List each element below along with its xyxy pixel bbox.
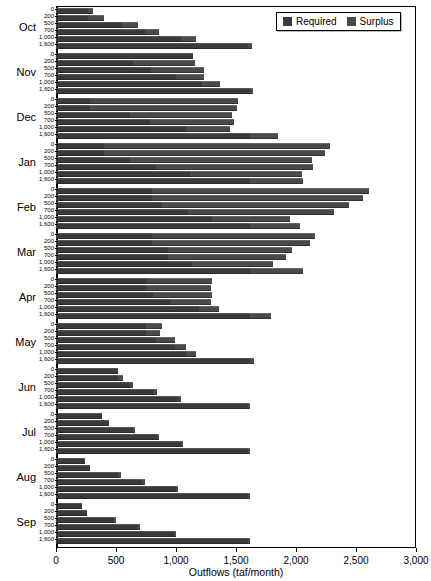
bar-row[interactable] xyxy=(56,531,416,537)
bar-row[interactable] xyxy=(56,223,416,229)
bar-segment-required[interactable] xyxy=(56,524,138,530)
bar-segment-surplus[interactable] xyxy=(88,15,104,21)
bar-segment-surplus[interactable] xyxy=(248,43,252,49)
bar-segment-surplus[interactable] xyxy=(152,233,315,239)
bar-row[interactable] xyxy=(56,36,416,42)
bar-segment-surplus[interactable] xyxy=(202,81,220,87)
bar-segment-required[interactable] xyxy=(56,157,130,163)
bar-segment-surplus[interactable] xyxy=(248,538,250,544)
bar-segment-surplus[interactable] xyxy=(250,178,303,184)
bar-segment-required[interactable] xyxy=(56,330,146,336)
bar-segment-surplus[interactable] xyxy=(145,29,159,35)
bar-segment-required[interactable] xyxy=(56,74,176,80)
bar-row[interactable] xyxy=(56,268,416,274)
bar-segment-surplus[interactable] xyxy=(114,517,116,523)
bar-segment-required[interactable] xyxy=(56,36,181,42)
bar-segment-required[interactable] xyxy=(56,503,82,509)
bar-segment-surplus[interactable] xyxy=(188,209,334,215)
bar-segment-required[interactable] xyxy=(56,486,176,492)
bar-segment-required[interactable] xyxy=(56,43,248,49)
bar-row[interactable] xyxy=(56,98,416,104)
bar-segment-surplus[interactable] xyxy=(118,375,123,381)
bar-segment-required[interactable] xyxy=(56,306,199,312)
bar-segment-surplus[interactable] xyxy=(192,261,274,267)
bar-segment-required[interactable] xyxy=(56,150,104,156)
bar-segment-surplus[interactable] xyxy=(151,67,204,73)
bar-segment-required[interactable] xyxy=(56,209,188,215)
bar-row[interactable] xyxy=(56,43,416,49)
bar-row[interactable] xyxy=(56,209,416,215)
bar-segment-surplus[interactable] xyxy=(190,171,302,177)
bar-row[interactable] xyxy=(56,88,416,94)
bar-segment-required[interactable] xyxy=(56,517,114,523)
bar-segment-surplus[interactable] xyxy=(147,278,212,284)
bar-segment-surplus[interactable] xyxy=(156,164,313,170)
bar-row[interactable] xyxy=(56,278,416,284)
bar-row[interactable] xyxy=(56,60,416,66)
bar-segment-surplus[interactable] xyxy=(154,389,156,395)
bar-segment-surplus[interactable] xyxy=(186,351,197,357)
bar-segment-surplus[interactable] xyxy=(178,396,180,402)
bar-row[interactable] xyxy=(56,233,416,239)
bar-segment-surplus[interactable] xyxy=(90,98,239,104)
bar-segment-surplus[interactable] xyxy=(152,188,369,194)
bar-segment-surplus[interactable] xyxy=(212,216,290,222)
bar-row[interactable] xyxy=(56,292,416,298)
bar-segment-required[interactable] xyxy=(56,15,88,21)
bar-segment-surplus[interactable] xyxy=(174,531,176,537)
bar-segment-required[interactable] xyxy=(56,368,118,374)
bar-segment-required[interactable] xyxy=(56,427,133,433)
bar-segment-surplus[interactable] xyxy=(162,202,349,208)
bar-segment-surplus[interactable] xyxy=(176,74,204,80)
bar-segment-required[interactable] xyxy=(56,531,174,537)
bar-segment-required[interactable] xyxy=(56,67,151,73)
bar-segment-surplus[interactable] xyxy=(150,119,234,125)
bar-segment-surplus[interactable] xyxy=(250,268,303,274)
bar-row[interactable] xyxy=(56,188,416,194)
bar-segment-required[interactable] xyxy=(56,337,156,343)
bar-row[interactable] xyxy=(56,396,416,402)
bar-segment-surplus[interactable] xyxy=(168,247,293,253)
bar-row[interactable] xyxy=(56,247,416,253)
bar-row[interactable] xyxy=(56,420,416,426)
bar-segment-surplus[interactable] xyxy=(146,330,160,336)
bar-row[interactable] xyxy=(56,337,416,343)
bar-row[interactable] xyxy=(56,538,416,544)
bar-segment-surplus[interactable] xyxy=(157,434,159,440)
bar-segment-required[interactable] xyxy=(56,299,171,305)
bar-segment-required[interactable] xyxy=(56,119,150,125)
bar-segment-required[interactable] xyxy=(56,538,248,544)
bar-segment-required[interactable] xyxy=(56,8,88,14)
bar-row[interactable] xyxy=(56,358,416,364)
bar-segment-surplus[interactable] xyxy=(248,493,250,499)
bar-segment-required[interactable] xyxy=(56,171,190,177)
bar-segment-surplus[interactable] xyxy=(142,479,144,485)
bar-row[interactable] xyxy=(56,171,416,177)
bar-row[interactable] xyxy=(56,81,416,87)
bar-segment-surplus[interactable] xyxy=(147,285,211,291)
bar-segment-surplus[interactable] xyxy=(171,299,211,305)
bar-segment-surplus[interactable] xyxy=(118,472,120,478)
bar-segment-surplus[interactable] xyxy=(248,403,250,409)
bar-row[interactable] xyxy=(56,427,416,433)
bar-row[interactable] xyxy=(56,67,416,73)
bar-row[interactable] xyxy=(56,441,416,447)
bar-segment-surplus[interactable] xyxy=(152,195,363,201)
bar-segment-required[interactable] xyxy=(56,323,146,329)
bar-segment-required[interactable] xyxy=(56,510,87,516)
bar-row[interactable] xyxy=(56,465,416,471)
bar-segment-surplus[interactable] xyxy=(250,133,278,139)
bar-row[interactable] xyxy=(56,133,416,139)
bar-segment-surplus[interactable] xyxy=(250,358,254,364)
bar-row[interactable] xyxy=(56,254,416,260)
bar-segment-required[interactable] xyxy=(56,448,248,454)
bar-segment-surplus[interactable] xyxy=(181,36,197,42)
bar-row[interactable] xyxy=(56,157,416,163)
bar-segment-required[interactable] xyxy=(56,268,250,274)
bar-segment-surplus[interactable] xyxy=(153,292,212,298)
bar-row[interactable] xyxy=(56,503,416,509)
bar-row[interactable] xyxy=(56,216,416,222)
bar-segment-required[interactable] xyxy=(56,472,118,478)
bar-row[interactable] xyxy=(56,479,416,485)
bar-row[interactable] xyxy=(56,299,416,305)
